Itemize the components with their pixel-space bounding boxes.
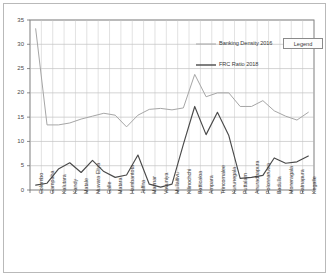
- x-tick-label: Trincomalee: [220, 165, 226, 194]
- y-tick-label: 5: [8, 162, 24, 169]
- x-tick-label: Matale: [83, 178, 89, 194]
- y-tick-label: 15: [8, 114, 24, 121]
- x-tick-label: Galle: [106, 182, 112, 194]
- y-tick-label: 20: [8, 89, 24, 96]
- x-tick-label: Colombo: [38, 173, 44, 194]
- x-tick-label: Jaffna: [140, 180, 146, 194]
- y-tick-label: 30: [8, 41, 24, 48]
- x-tick-label: Kurunegala: [231, 167, 237, 194]
- x-tick-label: Kandy: [72, 179, 78, 194]
- line-chart-plot: [0, 0, 330, 277]
- x-tick-label: Ampara: [208, 175, 214, 194]
- x-tick-label: Kalutara: [61, 174, 67, 194]
- y-tick-label: 10: [8, 138, 24, 145]
- y-tick-label: 35: [8, 17, 24, 24]
- x-tick-label: Mullaitivu: [174, 172, 180, 194]
- x-tick-label: Ratnapura: [299, 169, 305, 194]
- x-tick-label: Batticaloa: [197, 171, 203, 194]
- x-tick-label: Anuradhapura: [254, 160, 260, 194]
- x-tick-label: Moneragala: [288, 166, 294, 194]
- x-tick-label: Badulla: [276, 176, 282, 194]
- x-tick-label: Puttalam: [242, 173, 248, 194]
- x-tick-label: Nuwara Eliya: [95, 163, 101, 194]
- x-tick-label: Vavuniya: [163, 173, 169, 194]
- x-tick-label: Mannar: [151, 176, 157, 194]
- x-tick-label: Kilinochchi: [186, 169, 192, 194]
- x-tick-label: Gampaha: [49, 171, 55, 194]
- y-tick-label: 25: [8, 65, 24, 72]
- chart-root: 05101520253035 ColomboGampahaKalutaraKan…: [0, 0, 330, 277]
- legend-title-box[interactable]: Legend: [283, 38, 323, 49]
- legend-label-1: FRC Ratio 2018: [219, 61, 258, 67]
- x-tick-label: Matara: [117, 178, 123, 194]
- legend-label-0: Banking Density 2016: [219, 40, 272, 46]
- x-tick-label: Hambantota: [129, 165, 135, 194]
- x-tick-label: Kegalle: [311, 176, 317, 194]
- y-tick-label: 0: [8, 187, 24, 194]
- x-tick-label: Polonnaruwa: [265, 163, 271, 194]
